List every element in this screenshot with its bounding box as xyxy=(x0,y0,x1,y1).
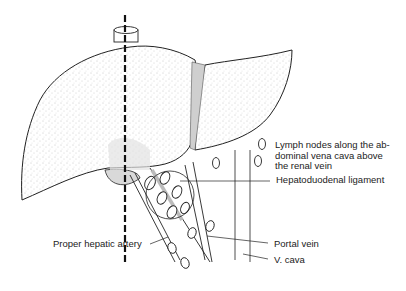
label-hepatoduodenal-ligament: Hepatoduodenal ligament xyxy=(276,175,384,186)
vena-cava xyxy=(235,150,250,262)
liver-left-lobe xyxy=(195,50,292,150)
label-lymph-nodes: Lymph nodes along the ab- dominal vena c… xyxy=(275,140,390,172)
label-v-cava: V. cava xyxy=(274,255,305,266)
label-proper-hepatic-artery: Proper hepatic artery xyxy=(53,239,142,250)
label-portal-vein: Portal vein xyxy=(274,239,319,250)
gallbladder xyxy=(105,169,140,184)
